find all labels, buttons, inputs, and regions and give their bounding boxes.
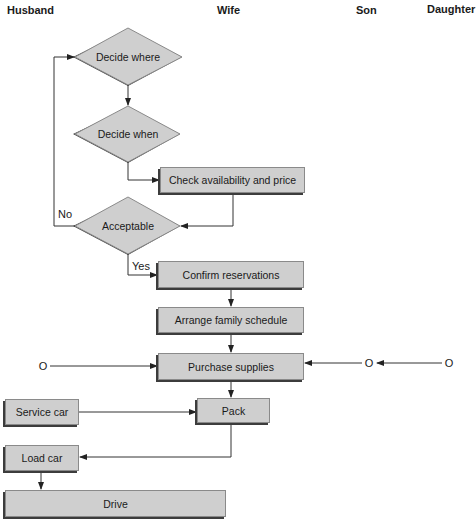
yes-label: Yes (132, 260, 150, 272)
process-arrange-schedule: Arrange family schedule (158, 307, 304, 333)
process-check-availability: Check availability and price (160, 167, 305, 193)
acceptable-label: Acceptable (102, 220, 154, 232)
decide-where-label: Decide where (96, 51, 160, 63)
no-label: No (58, 208, 72, 220)
process-service-car: Service car (5, 399, 79, 425)
process-pack: Pack (197, 398, 270, 423)
process-drive: Drive (5, 490, 226, 517)
process-load-car: Load car (5, 445, 79, 471)
decide-when-label: Decide when (98, 128, 159, 140)
terminal-daughter: O (445, 357, 454, 369)
process-purchase-supplies: Purchase supplies (158, 353, 304, 380)
process-confirm-reservations: Confirm reservations (158, 261, 304, 288)
terminal-son: O (365, 357, 374, 369)
terminal-husband: O (39, 360, 48, 372)
